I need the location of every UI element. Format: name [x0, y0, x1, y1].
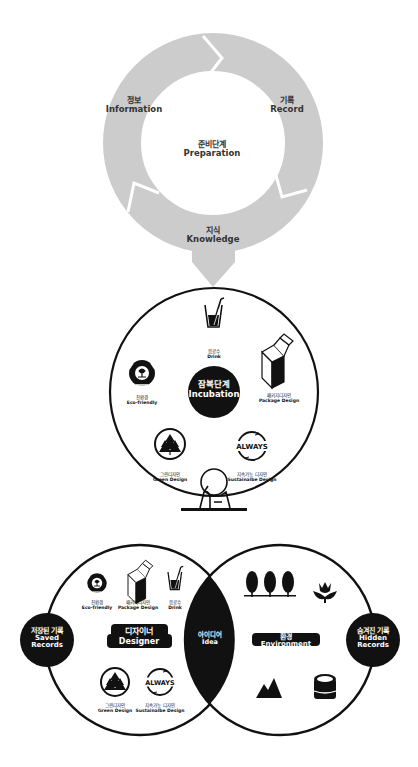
- label-incubation: 잠복단계 Incubation: [189, 380, 240, 400]
- label-green-design: 그린디자인 Green Design: [153, 472, 187, 482]
- always-text: ALWAYS: [236, 443, 268, 451]
- environment-en: Environment: [261, 641, 311, 648]
- recycle-eco-icon: [129, 360, 155, 386]
- trees-circle-icon: [155, 429, 185, 459]
- designer-ko: 디자이너: [119, 627, 159, 637]
- saved-en2: Records: [31, 642, 63, 649]
- always-text-small: ALWAYS: [145, 679, 175, 687]
- venn-drink-en: Drink: [168, 605, 182, 610]
- label-saved-records: 저장된 기록 Saved Records: [31, 628, 63, 649]
- down-arrow: [192, 248, 235, 287]
- trees-circle-icon: [101, 668, 129, 696]
- label-record: 기록 Record: [270, 96, 303, 115]
- venn-label-eco: 친환경 Eco-friendly: [82, 600, 112, 610]
- label-knowledge: 지식 Knowledge: [187, 226, 240, 245]
- green-en: Green Design: [153, 477, 187, 482]
- venn-label-drink: 음료수 Drink: [168, 600, 182, 610]
- venn-green-en: Green Design: [98, 708, 132, 713]
- record-en: Record: [270, 105, 303, 115]
- label-drink: 음료수 Drink: [207, 349, 221, 359]
- venn-label-package: 패키지디자인 Package Design: [118, 600, 158, 610]
- label-designer: 디자이너 Designer: [119, 627, 159, 646]
- venn-package-en: Package Design: [118, 605, 158, 610]
- hidden-en2: Records: [357, 642, 389, 649]
- label-sustainable-design: 지속가능 디자인 Sustainalbe Design: [228, 472, 277, 482]
- knowledge-en: Knowledge: [187, 235, 240, 245]
- designer-en: Designer: [119, 637, 159, 647]
- recycle-eco-icon: [87, 573, 107, 593]
- label-information: 정보 Information: [106, 96, 162, 115]
- venn-label-sustainable: 지속가능 디자인 Sustainalbe Design: [136, 703, 185, 713]
- tree-stump-icon: [314, 674, 336, 699]
- incubation-en: Incubation: [189, 390, 240, 400]
- venn-sustainable-en: Sustainalbe Design: [136, 708, 185, 713]
- label-preparation: 준비단계 Preparation: [184, 140, 241, 159]
- venn-label-green: 그린디자인 Green Design: [98, 703, 132, 713]
- cycle-ring: [122, 36, 307, 287]
- idea-en: Idea: [198, 639, 222, 646]
- label-environment: 환경 Environment: [261, 634, 311, 649]
- three-trees-icon: [244, 571, 296, 597]
- label-idea: 아이디어 Idea: [198, 632, 222, 647]
- information-en: Information: [106, 105, 162, 115]
- sustainable-en: Sustainalbe Design: [228, 477, 277, 482]
- preparation-en: Preparation: [184, 149, 241, 159]
- label-package-design: 패키지디자인 Package Design: [259, 393, 299, 403]
- label-hidden-records: 숨겨진 기록 Hidden Records: [357, 628, 389, 649]
- eco-en: Eco-friendly: [127, 400, 157, 405]
- label-eco-friendly: 친환경 Eco-friendly: [127, 395, 157, 405]
- drink-en: Drink: [207, 354, 221, 359]
- package-en: Package Design: [259, 398, 299, 403]
- venn-eco-en: Eco-friendly: [82, 605, 112, 610]
